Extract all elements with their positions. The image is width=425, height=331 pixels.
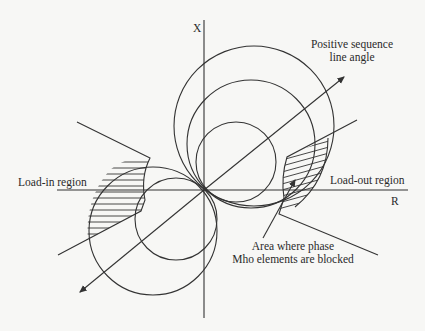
blocked-area-leader [263,180,295,238]
blocked-area-label: Area where phase Mho elements are blocke… [228,240,358,266]
load-out-label: Load-out region [330,174,404,187]
load-in-label: Load-in region [18,176,87,189]
blocked-area-label-line2: Mho elements are blocked [228,253,358,266]
r-axis-label: R [391,195,399,208]
positive-sequence-label: Positive sequence line angle [302,38,402,64]
x-axis-label: X [193,22,201,35]
blocked-area-label-line1: Area where phase [228,240,358,253]
positive-sequence-label-line1: Positive sequence [302,38,402,51]
positive-sequence-label-line2: line angle [302,51,402,64]
